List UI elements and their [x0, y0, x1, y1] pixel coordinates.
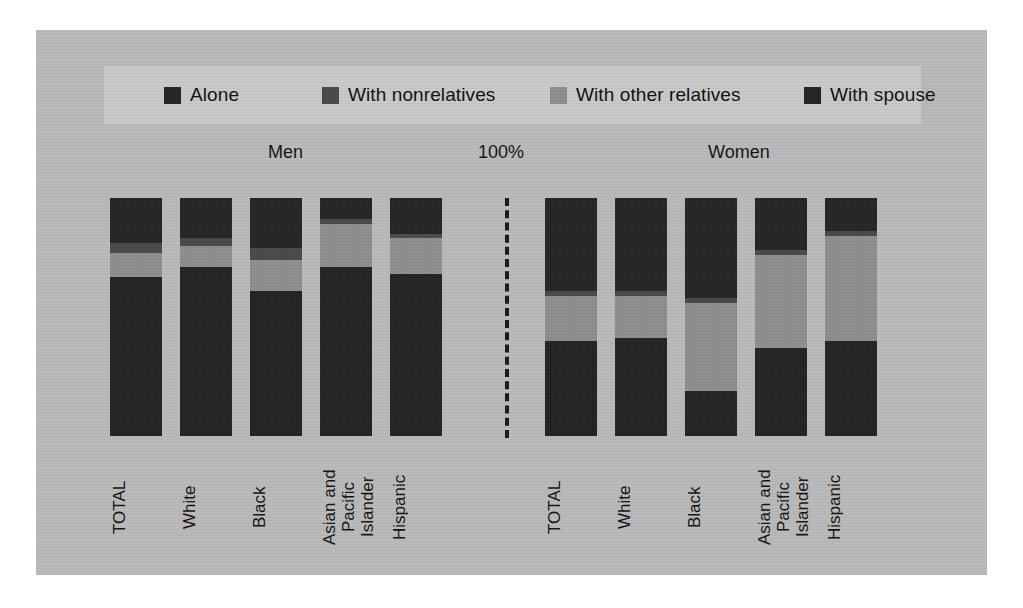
bar-segment-with-other-relatives: [685, 303, 737, 391]
bar-segment-with-spouse: [685, 391, 737, 436]
stacked-bar-women-hispanic[interactable]: [825, 198, 877, 436]
bar-segment-with-spouse: [320, 267, 372, 436]
bar-segment-alone: [825, 198, 877, 231]
bar-segment-with-other-relatives: [180, 246, 232, 267]
stacked-bar-men-white[interactable]: [180, 198, 232, 436]
bar-segment-alone: [615, 198, 667, 291]
bar-segment-with-other-relatives: [755, 255, 807, 348]
bar-segment-with-other-relatives: [825, 236, 877, 341]
stacked-bar-men-asian-and-pacific-islander[interactable]: [320, 198, 372, 436]
plot-area: TOTALWhiteBlackAsian and Pacific Islande…: [36, 30, 987, 575]
bar-segment-with-spouse: [615, 338, 667, 436]
bar-category-label-women-white: White: [615, 442, 667, 572]
bar-segment-with-other-relatives: [390, 238, 442, 274]
bar-segment-alone: [250, 198, 302, 248]
bar-segment-with-spouse: [250, 291, 302, 436]
bar-segment-with-spouse: [545, 341, 597, 436]
bar-category-label-men-asian-and-pacific-islander: Asian and Pacific Islander: [320, 442, 372, 572]
bar-segment-with-other-relatives: [250, 260, 302, 291]
bar-segment-with-other-relatives: [320, 224, 372, 267]
bar-category-label-men-white: White: [180, 442, 232, 572]
bar-segment-with-spouse: [825, 341, 877, 436]
stacked-bar-women-white[interactable]: [615, 198, 667, 436]
bar-segment-with-spouse: [390, 274, 442, 436]
bar-segment-alone: [685, 198, 737, 298]
bar-segment-with-spouse: [110, 277, 162, 436]
chart-figure: AloneWith nonrelativesWith other relativ…: [36, 30, 987, 575]
bar-category-label-men-total: TOTAL: [110, 442, 162, 572]
bar-category-label-women-asian-and-pacific-islander: Asian and Pacific Islander: [755, 442, 807, 572]
bar-segment-alone: [390, 198, 442, 234]
bar-category-label-women-total: TOTAL: [545, 442, 597, 572]
bar-segment-with-nonrelatives: [250, 248, 302, 260]
bar-segment-with-spouse: [180, 267, 232, 436]
bar-segment-with-nonrelatives: [180, 238, 232, 245]
panel-divider-dashed-line: [505, 198, 509, 438]
bar-segment-alone: [180, 198, 232, 238]
bar-segment-with-other-relatives: [545, 296, 597, 341]
bar-category-label-men-black: Black: [250, 442, 302, 572]
bar-category-label-women-black: Black: [685, 442, 737, 572]
bar-segment-alone: [110, 198, 162, 243]
stacked-bar-men-total[interactable]: [110, 198, 162, 436]
bar-segment-with-other-relatives: [110, 253, 162, 277]
bar-category-label-men-hispanic: Hispanic: [390, 442, 442, 572]
bar-segment-with-spouse: [755, 348, 807, 436]
stacked-bar-men-hispanic[interactable]: [390, 198, 442, 436]
stacked-bar-men-black[interactable]: [250, 198, 302, 436]
bar-segment-with-other-relatives: [615, 296, 667, 339]
bar-segment-alone: [320, 198, 372, 219]
bar-category-label-women-hispanic: Hispanic: [825, 442, 877, 572]
stacked-bar-women-total[interactable]: [545, 198, 597, 436]
bar-segment-with-nonrelatives: [110, 243, 162, 253]
stacked-bar-women-asian-and-pacific-islander[interactable]: [755, 198, 807, 436]
bar-segment-alone: [755, 198, 807, 250]
bar-segment-alone: [545, 198, 597, 291]
stacked-bar-women-black[interactable]: [685, 198, 737, 436]
